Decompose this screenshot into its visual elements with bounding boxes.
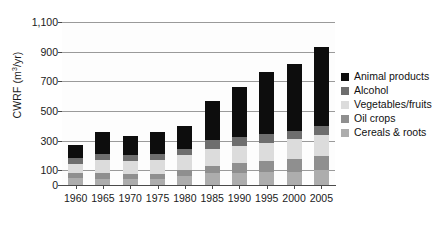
legend-label-text: Animal products <box>354 71 429 82</box>
y-tick-mark-1100 <box>58 22 62 23</box>
bar-segment-1990-animal-products <box>232 87 247 137</box>
bar-segment-1990-oil-crops <box>232 163 247 173</box>
legend-item-oil-crops[interactable]: Oil crops <box>341 112 445 125</box>
x-tick-mark-2000 <box>294 185 295 189</box>
y-tick-label-1100: 1,100 <box>6 17 58 27</box>
bar-segment-1970-vegetables-fruits <box>123 161 138 173</box>
legend-swatch-oil-crops <box>341 115 349 123</box>
bar-1990[interactable] <box>232 87 247 185</box>
legend-item-vegetables-fruits[interactable]: Vegetables/fruits <box>341 98 445 111</box>
legend-label-text: Cereals & roots <box>354 127 426 138</box>
legend-label-text: Oil crops <box>354 113 395 124</box>
y-tick-mark-300 <box>58 141 62 142</box>
x-tick-mark-2005 <box>321 185 322 189</box>
bar-1965[interactable] <box>95 132 110 185</box>
bar-segment-1990-vegetables-fruits <box>232 146 247 164</box>
y-tick-mark-500 <box>58 111 62 112</box>
bar-1975[interactable] <box>150 132 165 185</box>
legend-swatch-cereals-roots <box>341 129 349 137</box>
x-tick-mark-1995 <box>267 185 268 189</box>
bar-segment-1960-animal-products <box>68 145 83 158</box>
bar-series-container <box>62 22 335 185</box>
bar-segment-2005-cereals-roots <box>314 170 329 185</box>
y-tick-mark-100 <box>58 170 62 171</box>
bar-segment-1985-vegetables-fruits <box>205 149 220 166</box>
bar-2000[interactable] <box>287 64 302 185</box>
bar-segment-2000-oil-crops <box>287 159 302 172</box>
chart-legend: Animal productsAlcoholVegetables/fruitsO… <box>341 70 445 140</box>
legend-swatch-vegetables-fruits <box>341 101 349 109</box>
bar-segment-1970-animal-products <box>123 136 138 156</box>
x-tick-mark-1960 <box>76 185 77 189</box>
bar-segment-2000-cereals-roots <box>287 172 302 185</box>
bar-segment-2005-vegetables-fruits <box>314 135 329 156</box>
legend-swatch-alcohol <box>341 87 349 95</box>
y-tick-mark-0 <box>58 185 62 186</box>
y-tick-label-500: 500 <box>6 106 58 116</box>
bar-segment-1995-alcohol <box>259 134 274 142</box>
legend-item-animal-products[interactable]: Animal products <box>341 70 445 83</box>
bar-segment-1980-vegetables-fruits <box>177 155 192 169</box>
x-tick-mark-1990 <box>239 185 240 189</box>
x-tick-mark-1980 <box>185 185 186 189</box>
plot-area <box>62 22 335 185</box>
y-tick-label-300: 300 <box>6 136 58 146</box>
y-tick-label-900: 900 <box>6 47 58 57</box>
y-tick-label-700: 700 <box>6 76 58 86</box>
bar-segment-1985-cereals-roots <box>205 173 220 185</box>
bar-segment-1965-vegetables-fruits <box>95 160 110 173</box>
y-tick-mark-700 <box>58 81 62 82</box>
bar-1980[interactable] <box>177 126 192 185</box>
bar-1995[interactable] <box>259 72 274 185</box>
bar-segment-1990-cereals-roots <box>232 173 247 185</box>
bar-segment-1995-vegetables-fruits <box>259 143 274 161</box>
bar-segment-1960-cereals-roots <box>68 178 83 185</box>
bar-segment-2000-animal-products <box>287 64 302 131</box>
bar-segment-2005-oil-crops <box>314 156 329 170</box>
bar-segment-1960-vegetables-fruits <box>68 164 83 173</box>
bar-segment-1980-animal-products <box>177 126 192 149</box>
bar-segment-1995-cereals-roots <box>259 172 274 185</box>
x-tick-label-2005: 2005 <box>304 192 338 204</box>
y-tick-label-0: 0 <box>6 180 58 190</box>
y-tick-label-100: 100 <box>6 165 58 175</box>
bar-segment-1980-cereals-roots <box>177 176 192 185</box>
bar-segment-1985-alcohol <box>205 140 220 149</box>
legend-label-text: Vegetables/fruits <box>354 99 432 110</box>
x-tick-mark-1970 <box>130 185 131 189</box>
bar-segment-1990-alcohol <box>232 137 247 146</box>
bar-segment-1975-animal-products <box>150 132 165 155</box>
bar-segment-2005-animal-products <box>314 47 329 126</box>
bar-segment-1985-animal-products <box>205 101 220 141</box>
bar-segment-1975-vegetables-fruits <box>150 160 165 173</box>
stacked-bar-chart: CWRF (m3/yr) 01003005007009001,100 19601… <box>0 0 446 228</box>
bar-2005[interactable] <box>314 47 329 185</box>
legend-swatch-animal-products <box>341 73 349 81</box>
bar-segment-2000-alcohol <box>287 131 302 139</box>
bar-segment-1965-animal-products <box>95 132 110 154</box>
bar-1985[interactable] <box>205 101 220 185</box>
x-tick-mark-1965 <box>103 185 104 189</box>
bar-segment-1995-animal-products <box>259 72 274 134</box>
x-tick-mark-1975 <box>158 185 159 189</box>
x-tick-mark-1985 <box>212 185 213 189</box>
legend-label-text: Alcohol <box>354 85 388 96</box>
bar-1970[interactable] <box>123 136 138 185</box>
bar-segment-1985-oil-crops <box>205 166 220 174</box>
bar-segment-2000-vegetables-fruits <box>287 139 302 159</box>
bar-segment-2005-alcohol <box>314 126 329 135</box>
legend-item-cereals-roots[interactable]: Cereals & roots <box>341 126 445 139</box>
bar-segment-1995-oil-crops <box>259 161 274 172</box>
bar-1960[interactable] <box>68 145 83 185</box>
y-tick-mark-900 <box>58 52 62 53</box>
legend-item-alcohol[interactable]: Alcohol <box>341 84 445 97</box>
